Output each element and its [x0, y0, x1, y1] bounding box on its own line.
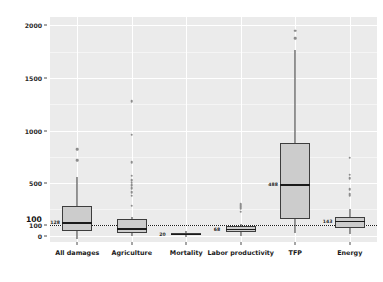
gridline-y-1000 [50, 131, 377, 132]
median-value-label: 20 [159, 231, 165, 236]
x-tick-mark-4 [295, 242, 296, 245]
outlier-point [294, 37, 297, 40]
x-axis-label-energy: Energy [337, 249, 362, 257]
outlier-point [294, 29, 297, 32]
y-tick-label: 1000 [25, 127, 42, 134]
median-value-label: 68 [214, 226, 220, 231]
outlier-point [348, 157, 351, 160]
y-tick-label: 2000 [25, 22, 42, 29]
x-axis-label-labor-productivity: Labor productivity [207, 249, 274, 257]
outlier-point [130, 133, 133, 136]
gridline-y-0 [50, 236, 377, 237]
median-line [62, 222, 92, 224]
x-tick-mark-2 [186, 242, 187, 245]
outlier-point [239, 202, 242, 205]
outlier-point [130, 191, 133, 194]
gridline-y-2000 [50, 25, 377, 26]
outlier-point [239, 210, 242, 213]
x-axis-label-agriculture: Agriculture [112, 249, 152, 257]
median-line [117, 228, 147, 230]
outlier-point [130, 187, 133, 190]
x-tick-mark-0 [77, 242, 78, 245]
x-axis: All damagesAgricultureMortalityLabor pro… [50, 242, 377, 272]
boxplot-mortality [171, 17, 201, 242]
y-tick-500: 500 [29, 180, 47, 187]
median-value-label: 488 [268, 182, 278, 187]
y-tick-mark [44, 235, 47, 236]
outlier-point [130, 181, 133, 184]
median-value-label: 128 [50, 220, 60, 225]
outlier-point [348, 177, 351, 180]
outlier-point [348, 193, 351, 196]
y-tick-0: 0 [38, 232, 47, 239]
y-tick-mark [44, 130, 47, 131]
box-iqr [280, 143, 310, 219]
box-iqr [335, 217, 365, 228]
outlier-point [130, 100, 133, 103]
boxplot-energy [335, 17, 365, 242]
boxplot-agriculture [117, 17, 147, 242]
gridline-y-500 [50, 183, 377, 184]
median-line [171, 234, 201, 236]
median-value-label: 143 [323, 218, 333, 223]
gridline-minor-y-1250 [50, 104, 377, 105]
gridline-minor-y-1750 [50, 52, 377, 53]
x-axis-label-tfp: TFP [289, 249, 302, 257]
outlier-point [76, 148, 79, 151]
y-tick-mark [44, 25, 47, 26]
median-line [335, 221, 365, 223]
y-tick-label: 1500 [25, 74, 42, 81]
y-tick-1500: 1500 [25, 74, 47, 81]
gridline-minor-y-250 [50, 209, 377, 210]
outlier-point [348, 188, 351, 191]
gridline-y-1500 [50, 78, 377, 79]
box-iqr [62, 206, 92, 231]
y-axis-ticks: 0100500100015002000 [0, 0, 47, 282]
boxplot-labor-productivity [226, 17, 256, 242]
y-tick-mark [44, 225, 47, 226]
x-tick-mark-1 [131, 242, 132, 245]
outlier-point [76, 159, 79, 162]
outlier-point [130, 179, 133, 182]
outlier-point [348, 173, 351, 176]
reference-line-label: 100 [26, 215, 42, 224]
x-axis-label-all-damages: All damages [55, 249, 99, 257]
x-tick-mark-3 [240, 242, 241, 245]
boxplot-tfp [280, 17, 310, 242]
median-line [226, 229, 256, 231]
x-axis-label-mortality: Mortality [170, 249, 203, 257]
y-tick-mark [44, 77, 47, 78]
x-tick-mark-5 [349, 242, 350, 245]
gridline-minor-y-750 [50, 157, 377, 158]
y-tick-label: 500 [29, 180, 42, 187]
boxplot-chart: Macro impacts (% relative to direct impa… [0, 0, 383, 282]
outlier-point [130, 174, 133, 177]
plot-panel: 1282068488143 [50, 17, 377, 242]
y-tick-label: 0 [38, 232, 42, 239]
outlier-point [130, 184, 133, 187]
median-line [280, 184, 310, 186]
y-tick-mark [44, 183, 47, 184]
outlier-point [130, 161, 133, 164]
y-tick-2000: 2000 [25, 22, 47, 29]
outlier-point [130, 204, 133, 207]
outlier-point [130, 194, 133, 197]
boxplot-all-damages [62, 17, 92, 242]
y-tick-1000: 1000 [25, 127, 47, 134]
box-iqr [117, 219, 147, 232]
